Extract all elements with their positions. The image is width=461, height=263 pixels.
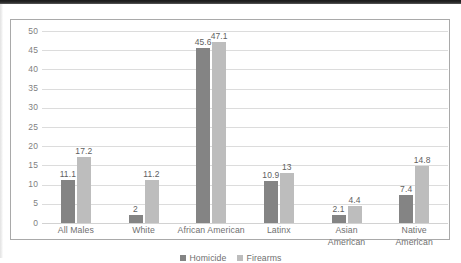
x-axis: All MalesWhiteAfrican AmericanLatinxAsia…: [42, 225, 448, 253]
y-axis-tick-label: 10: [16, 180, 38, 189]
y-axis-tick-label: 40: [16, 65, 38, 74]
legend-swatch-icon: [180, 255, 186, 261]
y-axis-tick-label: 15: [16, 161, 38, 170]
chart-legend: HomicideFirearms: [11, 253, 451, 263]
bar-firearms-latinx[interactable]: [280, 173, 294, 223]
bar-firearms-all-males[interactable]: [77, 157, 91, 223]
x-axis-category-line: Native: [366, 225, 461, 237]
bar-firearms-african-american[interactable]: [212, 42, 226, 223]
y-axis-tick-label: 45: [16, 46, 38, 55]
bar-value-label: 11.2: [138, 169, 166, 179]
legend-item-firearms[interactable]: Firearms: [237, 253, 281, 263]
bar-value-label: 47.1: [205, 31, 233, 41]
bar-value-label: 13: [273, 162, 301, 172]
scan-artifact-left-edge: [0, 4, 3, 258]
legend-item-homicide[interactable]: Homicide: [180, 253, 226, 263]
scan-artifact-top-band: [0, 0, 461, 4]
bar-homicide-white[interactable]: [129, 215, 143, 223]
x-axis-category-line: American: [366, 237, 461, 249]
x-axis-category-label: NativeAmerican: [366, 225, 461, 248]
bar-firearms-white[interactable]: [145, 180, 159, 223]
legend-label: Homicide: [189, 253, 226, 263]
gridline-0: [42, 223, 448, 224]
bar-value-label: 17.2: [70, 146, 98, 156]
y-axis-tick-label: 50: [16, 27, 38, 36]
legend-swatch-icon: [237, 255, 243, 261]
y-axis: 50454035302520151050: [14, 31, 38, 223]
bar-homicide-native-american[interactable]: [399, 195, 413, 223]
y-axis-tick-label: 5: [16, 199, 38, 208]
bar-homicide-asian-american[interactable]: [332, 215, 346, 223]
bar-homicide-african-american[interactable]: [196, 48, 210, 223]
y-axis-tick-label: 20: [16, 142, 38, 151]
bar-value-label: 4.4: [341, 195, 369, 205]
bars-layer: 11.117.2211.245.647.110.9132.14.47.414.8: [42, 31, 448, 223]
bar-firearms-native-american[interactable]: [415, 166, 429, 223]
bar-homicide-latinx[interactable]: [264, 181, 278, 223]
chart-frame: 50454035302520151050 11.117.2211.245.647…: [10, 19, 450, 240]
bar-firearms-asian-american[interactable]: [348, 206, 362, 223]
legend-label: Firearms: [246, 253, 281, 263]
bar-homicide-all-males[interactable]: [61, 180, 75, 223]
y-axis-tick-label: 30: [16, 103, 38, 112]
y-axis-tick-label: 25: [16, 123, 38, 132]
bar-value-label: 14.8: [408, 155, 436, 165]
y-axis-tick-label: 35: [16, 84, 38, 93]
